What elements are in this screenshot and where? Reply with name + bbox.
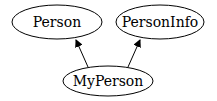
- node-person-label: Person: [33, 14, 81, 30]
- node-myperson-label: MyPerson: [73, 73, 144, 89]
- node-personinfo[interactable]: PersonInfo: [116, 5, 204, 39]
- node-personinfo-label: PersonInfo: [122, 14, 199, 30]
- node-person[interactable]: Person: [12, 5, 102, 39]
- inheritance-diagram: Person PersonInfo MyPerson: [0, 0, 217, 101]
- edge-myperson-to-personinfo: [128, 40, 140, 67]
- edge-myperson-to-person: [76, 40, 88, 67]
- node-myperson[interactable]: MyPerson: [63, 66, 153, 96]
